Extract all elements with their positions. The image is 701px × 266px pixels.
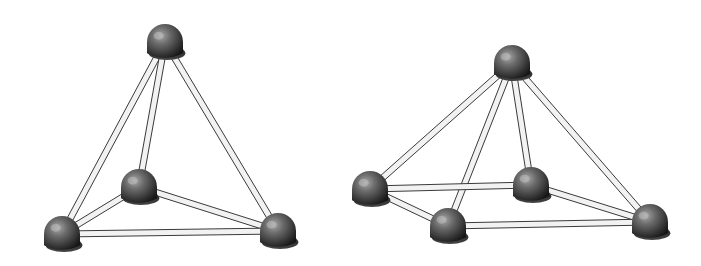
atom-top bbox=[147, 24, 185, 60]
bond-rod bbox=[445, 62, 515, 227]
molecular-geometry-diagram bbox=[0, 0, 701, 266]
figure-tetrahedron bbox=[59, 40, 280, 237]
atom-bottom-right bbox=[260, 213, 298, 249]
atom-back bbox=[121, 169, 159, 205]
bond-rod bbox=[162, 40, 280, 232]
atom-apex bbox=[494, 45, 532, 81]
atom-back bbox=[513, 167, 551, 203]
atom-right bbox=[632, 204, 670, 240]
bond-rod bbox=[62, 228, 278, 237]
bond-rod bbox=[368, 61, 514, 191]
geometry-canvas bbox=[0, 0, 701, 266]
bond-rod bbox=[370, 182, 531, 192]
figure-square-pyramid bbox=[368, 61, 652, 229]
atom-front bbox=[430, 208, 468, 244]
bond-rod bbox=[448, 219, 650, 229]
bonds-layer bbox=[59, 40, 652, 237]
